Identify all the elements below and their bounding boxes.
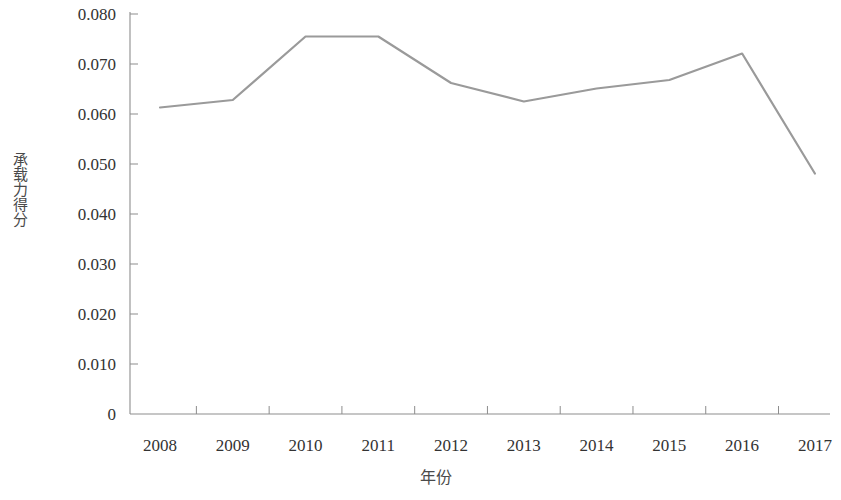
line-chart: 承载力得分 0.0800.0700.0600.0500.0400.0300.02… — [0, 0, 841, 500]
x-axis-tick-label: 2012 — [411, 436, 491, 456]
x-axis-tick-label: 2008 — [120, 436, 200, 456]
x-axis-tick-label: 2009 — [193, 436, 273, 456]
x-axis-tick-label: 2015 — [629, 436, 709, 456]
x-axis-tick-label: 2017 — [775, 436, 841, 456]
plot-area — [130, 14, 830, 414]
x-axis-tick-label: 2016 — [702, 436, 782, 456]
series-line-0 — [160, 37, 815, 174]
x-axis-tick-label: 2013 — [484, 436, 564, 456]
x-axis-tick-labels: 2008200920102011201220132014201520162017 — [130, 436, 830, 462]
x-axis-tick-label: 2011 — [338, 436, 418, 456]
x-axis-tick-label: 2014 — [557, 436, 637, 456]
x-axis-title: 年份 — [0, 468, 841, 488]
x-axis-tick-label: 2010 — [266, 436, 346, 456]
data-series-line — [130, 14, 830, 414]
